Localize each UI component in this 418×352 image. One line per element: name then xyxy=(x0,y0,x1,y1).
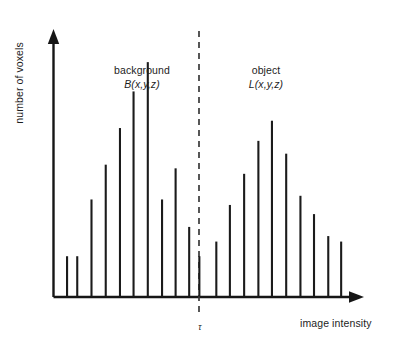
y-axis-arrowhead xyxy=(48,29,59,44)
x-axis xyxy=(54,291,365,302)
object-group-formula: L(x,y,z) xyxy=(215,78,317,92)
background-group-title: background xyxy=(86,64,198,78)
object-group-annotation: object L(x,y,z) xyxy=(215,64,317,92)
histogram-figure: number of voxels background B(x,y,z) obj… xyxy=(0,0,418,352)
background-group-annotation: background B(x,y,z) xyxy=(86,64,198,92)
histogram-plot xyxy=(0,0,418,352)
threshold-tau-label: τ xyxy=(190,322,210,333)
x-axis-arrowhead xyxy=(349,291,364,302)
x-axis-label: image intensity xyxy=(300,317,372,331)
histogram-bars xyxy=(67,62,341,296)
y-axis xyxy=(48,29,59,297)
object-group-title: object xyxy=(215,64,317,78)
background-group-formula: B(x,y,z) xyxy=(86,78,198,92)
y-axis-label: number of voxels xyxy=(13,23,27,143)
